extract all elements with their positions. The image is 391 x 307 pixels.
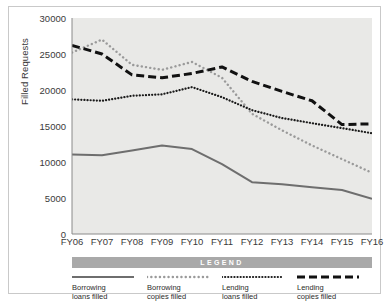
- x-tick-FY12: FY12: [241, 236, 264, 247]
- x-tick-FY08: FY08: [121, 236, 144, 247]
- figure-container: Filled Requests 050001000015000200002500…: [0, 0, 391, 307]
- y-tick-15000: 15000: [8, 121, 66, 132]
- legend-label-line1: Borrowing: [72, 283, 143, 292]
- y-tick-25000: 25000: [8, 49, 66, 60]
- series-line-lending-loans-filled: [72, 87, 372, 133]
- chart-legend: LEGEND Borrowingloans filledBorrowingcop…: [72, 257, 372, 301]
- y-tick-0: 0: [8, 229, 66, 240]
- y-tick-30000: 30000: [8, 13, 66, 24]
- legend-title-bar: LEGEND: [72, 257, 372, 268]
- x-tick-FY14: FY14: [301, 236, 324, 247]
- legend-label-line1: Lending: [222, 283, 293, 292]
- y-tick-10000: 10000: [8, 157, 66, 168]
- legend-label-line1: Borrowing: [147, 283, 218, 292]
- legend-swatch-icon: [72, 274, 143, 280]
- legend-items: Borrowingloans filledBorrowingcopies fil…: [72, 274, 372, 301]
- x-tick-FY07: FY07: [91, 236, 114, 247]
- legend-title: LEGEND: [200, 257, 244, 268]
- y-tick-5000: 5000: [8, 193, 66, 204]
- legend-label-line2: copies filled: [147, 292, 218, 301]
- plot-area: [72, 18, 372, 234]
- legend-item-borrowing-loans-filled[interactable]: Borrowingloans filled: [72, 274, 147, 301]
- legend-item-borrowing-copies-filled[interactable]: Borrowingcopies filled: [147, 274, 222, 301]
- legend-swatch-icon: [147, 274, 218, 280]
- x-tick-FY06: FY06: [61, 236, 84, 247]
- x-tick-FY15: FY15: [331, 236, 354, 247]
- legend-swatch-icon: [222, 274, 293, 280]
- legend-label-line1: Lending: [297, 283, 368, 292]
- x-tick-FY13: FY13: [271, 236, 294, 247]
- x-tick-FY11: FY11: [211, 236, 233, 247]
- y-axis-title: Filled Requests: [19, 17, 30, 127]
- legend-swatch-icon: [297, 274, 368, 280]
- x-tick-FY10: FY10: [181, 236, 204, 247]
- y-tick-20000: 20000: [8, 85, 66, 96]
- legend-label-line2: loans filled: [222, 292, 293, 301]
- x-tick-FY09: FY09: [151, 236, 174, 247]
- legend-label-line2: loans filled: [72, 292, 143, 301]
- x-tick-FY16: FY16: [361, 236, 384, 247]
- series-lines: [72, 18, 372, 234]
- series-line-borrowing-loans-filled: [72, 145, 372, 198]
- series-line-lending-copies-filled: [72, 45, 372, 124]
- legend-item-lending-loans-filled[interactable]: Lendingloans filled: [222, 274, 297, 301]
- legend-item-lending-copies-filled[interactable]: Lendingcopies filled: [297, 274, 372, 301]
- legend-label-line2: copies filled: [297, 292, 368, 301]
